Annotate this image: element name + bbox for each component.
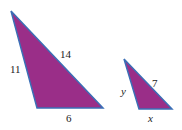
large-left-side-label: 11 <box>10 64 21 75</box>
similar-triangles-figure <box>0 0 182 130</box>
large-hypotenuse-label: 14 <box>60 49 71 60</box>
small-left-side-label: y <box>121 86 126 97</box>
large-base-label: 6 <box>66 113 72 124</box>
small-base-label: x <box>148 113 153 124</box>
small-hypotenuse-label: 7 <box>152 78 158 89</box>
small-triangle <box>124 59 172 109</box>
large-triangle <box>11 11 103 108</box>
